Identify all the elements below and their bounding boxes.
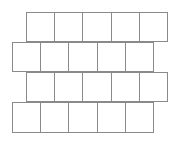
grid-cell	[82, 12, 111, 42]
grid-cell	[111, 12, 140, 42]
grid-cell	[97, 102, 126, 133]
grid-cell	[125, 42, 154, 72]
grid-row-2	[12, 42, 154, 72]
grid-cell	[68, 102, 97, 133]
grid-cell	[97, 42, 126, 72]
grid-cell	[54, 12, 83, 42]
grid-row-3	[26, 72, 168, 102]
grid-cell	[125, 102, 154, 133]
grid-cell	[12, 102, 41, 133]
grid-cell	[26, 12, 55, 42]
grid-cell	[139, 12, 168, 42]
offset-square-grid	[0, 0, 181, 142]
grid-cell	[111, 72, 140, 102]
grid-cell	[82, 72, 111, 102]
grid-cell	[26, 72, 55, 102]
grid-cell	[54, 72, 83, 102]
grid-cell	[68, 42, 97, 72]
grid-cell	[139, 72, 168, 102]
grid-row-4	[12, 102, 154, 133]
grid-cell	[40, 42, 69, 72]
grid-cell	[40, 102, 69, 133]
grid-cell	[12, 42, 41, 72]
grid-row-1	[26, 12, 168, 42]
